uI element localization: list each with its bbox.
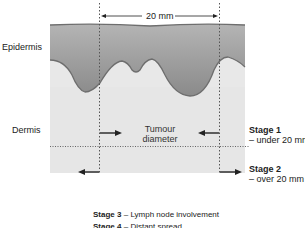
stage-1-desc: – under 20 mm [249,135,305,145]
tumour-diameter-line2: diameter [136,134,184,144]
stage-1-title: Stage 1 [249,125,305,135]
stage-4-label: Stage 4 – Distant spread [93,222,182,228]
stage-3-label: Stage 3 – Lymph node involvement [93,210,219,220]
tumour-diameter-label: Tumour diameter [136,124,184,144]
stage-4-desc: – Distant spread [124,222,182,228]
stage-3-desc: – Lymph node involvement [124,210,219,219]
measure-arrowhead-right [213,14,218,18]
tumour-stage-diagram [0,0,305,228]
stage-2-title: Stage 2 [249,164,304,174]
measure-label: 20 mm [145,11,175,21]
measure-arrowhead-left [101,14,106,18]
epidermis-label: Epidermis [2,42,42,52]
stage-4-title: Stage 4 [93,222,121,228]
stage-3-title: Stage 3 [93,210,121,219]
stage-2-desc: – over 20 mm [249,174,304,184]
stage-1-label: Stage 1 – under 20 mm [249,125,305,145]
dermis-label: Dermis [12,125,41,135]
stage-2-label: Stage 2 – over 20 mm [249,164,304,184]
tumour-diameter-line1: Tumour [136,124,184,134]
